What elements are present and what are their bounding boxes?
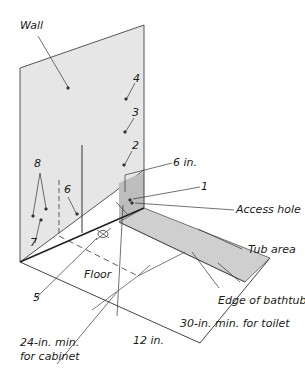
label-30in-toilet: 30-in. min. for toilet xyxy=(180,318,290,330)
label-6: 6 xyxy=(64,184,71,196)
label-6in: 6 in. xyxy=(173,157,197,169)
label-5: 5 xyxy=(33,292,40,304)
label-24in-line2: for cabinet xyxy=(20,351,80,363)
label-4: 4 xyxy=(133,73,140,85)
dimension-line-30in xyxy=(138,252,185,276)
label-tub-area: Tub area xyxy=(248,244,296,256)
label-2: 2 xyxy=(132,140,139,152)
label-7: 7 xyxy=(30,237,37,249)
label-3: 3 xyxy=(132,107,139,119)
toilet-flange-icon xyxy=(96,228,111,240)
label-24in-line1: 24-in. min. xyxy=(20,337,79,349)
label-edge-of-bathtub: Edge of bathtub xyxy=(218,295,305,307)
label-access-hole: Access hole xyxy=(236,204,301,216)
plumbing-diagram: Wall 4 3 2 6 in. 1 Access hole Tub area … xyxy=(0,0,305,386)
label-floor: Floor xyxy=(84,269,111,281)
label-12in: 12 in. xyxy=(133,335,164,347)
label-wall: Wall xyxy=(20,20,43,32)
label-8: 8 xyxy=(34,158,41,170)
label-1: 1 xyxy=(201,181,208,193)
